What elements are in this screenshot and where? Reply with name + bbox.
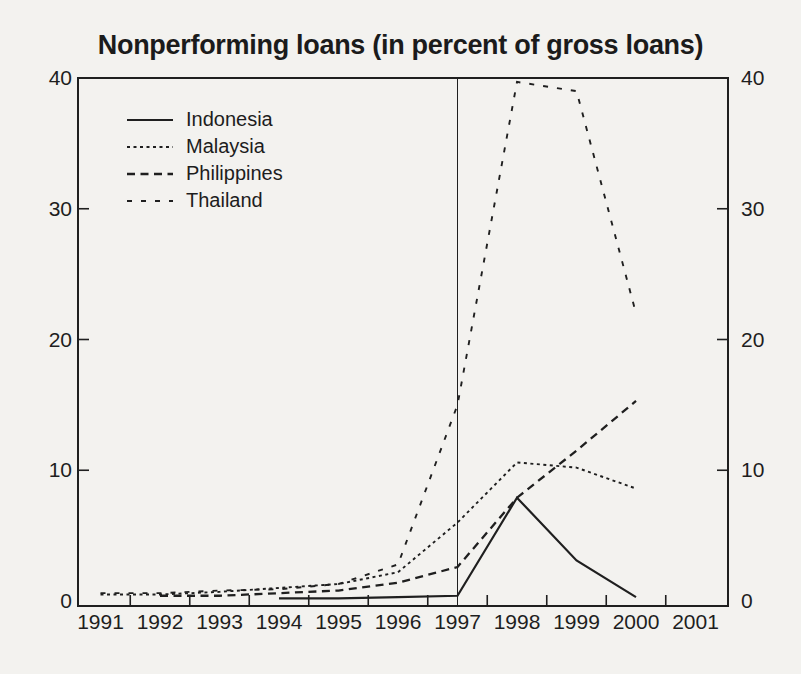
x-axis-label-1991: 1991 (69, 611, 133, 633)
malaysia-line-sample-icon (127, 142, 173, 152)
y-axis-label-left-0: 0 (26, 590, 72, 612)
x-axis-label-1993: 1993 (188, 611, 252, 633)
x-axis-label-1992: 1992 (128, 611, 192, 633)
legend-label-thailand: Thailand (186, 189, 263, 212)
y-axis-label-right-40: 40 (741, 67, 787, 89)
scanned-figure: Nonperforming loans (in percent of gross… (0, 0, 801, 674)
y-axis-label-right-20: 20 (741, 329, 787, 351)
legend-item-malaysia: Malaysia (127, 133, 283, 160)
legend-item-philippines: Philippines (127, 160, 283, 187)
legend-item-indonesia: Indonesia (127, 106, 283, 133)
x-axis-label-1995: 1995 (307, 611, 371, 633)
x-axis-label-1997: 1997 (426, 611, 490, 633)
plot-area (0, 0, 801, 674)
legend-label-philippines: Philippines (186, 162, 283, 185)
thailand-line-sample-icon (127, 196, 173, 206)
legend-label-indonesia: Indonesia (186, 108, 273, 131)
y-axis-label-right-0: 0 (741, 590, 787, 612)
x-axis-label-2000: 2000 (604, 611, 668, 633)
y-axis-label-left-10: 10 (26, 459, 72, 481)
y-axis-label-left-30: 30 (26, 198, 72, 220)
legend: Indonesia Malaysia Philippines Thailand (127, 106, 283, 214)
y-axis-label-left-20: 20 (26, 329, 72, 351)
philippines-line-sample-icon (127, 169, 173, 179)
x-axis-label-1998: 1998 (485, 611, 549, 633)
x-axis-label-2001: 2001 (664, 611, 728, 633)
y-axis-label-right-30: 30 (741, 198, 787, 220)
y-axis-label-right-10: 10 (741, 459, 787, 481)
y-axis-label-left-40: 40 (26, 67, 72, 89)
series-line-philippines (160, 401, 636, 596)
x-axis-label-1994: 1994 (247, 611, 311, 633)
indonesia-line-sample-icon (127, 115, 173, 125)
legend-label-malaysia: Malaysia (186, 135, 265, 158)
legend-item-thailand: Thailand (127, 187, 283, 214)
x-axis-label-1996: 1996 (366, 611, 430, 633)
x-axis-label-1999: 1999 (545, 611, 609, 633)
